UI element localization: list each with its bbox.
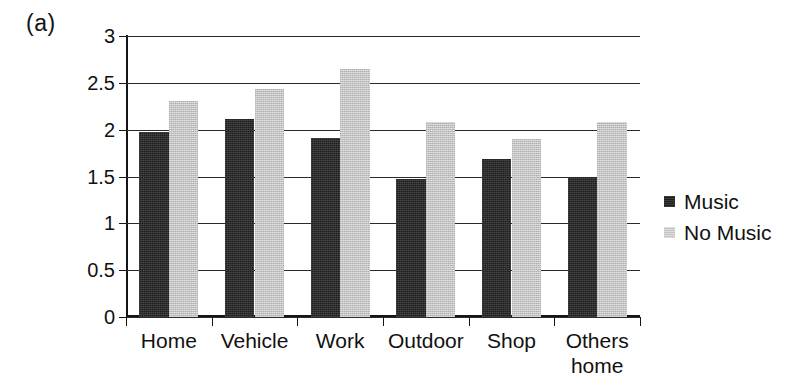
bar xyxy=(512,139,542,317)
x-category-label-line: Home xyxy=(126,328,212,353)
x-tick-mark xyxy=(126,317,127,326)
y-tick-mark xyxy=(119,83,126,84)
legend-swatch-icon xyxy=(664,196,675,207)
gridline xyxy=(126,270,640,271)
y-tick-label: 1 xyxy=(104,212,115,235)
x-tick-mark xyxy=(212,317,213,326)
x-category-label-line: Vehicle xyxy=(212,328,298,353)
x-category-label: Home xyxy=(126,328,212,353)
y-tick-mark xyxy=(119,270,126,271)
y-tick-label: 0 xyxy=(104,306,115,329)
bar xyxy=(396,179,426,317)
legend-swatch-icon xyxy=(664,227,675,238)
chart-legend: MusicNo Music xyxy=(664,186,772,248)
y-tick-label: 2.5 xyxy=(87,71,115,94)
gridline xyxy=(126,36,640,37)
bar xyxy=(482,159,512,317)
x-category-label-line: home xyxy=(554,353,640,378)
x-tick-mark xyxy=(383,317,384,326)
gridline xyxy=(126,83,640,84)
bar xyxy=(568,177,598,317)
y-tick-mark xyxy=(119,177,126,178)
x-tick-mark xyxy=(554,317,555,326)
gridline xyxy=(126,130,640,131)
x-category-label: Shop xyxy=(469,328,555,353)
x-tick-mark xyxy=(640,317,641,326)
bar-chart: 00.511.522.53 xyxy=(126,36,640,317)
bar xyxy=(225,119,255,317)
y-tick-label: 3 xyxy=(104,25,115,48)
x-category-label: Othershome xyxy=(554,328,640,378)
bar xyxy=(139,132,169,317)
y-tick-mark xyxy=(119,36,126,37)
x-category-label-line: Others xyxy=(554,328,640,353)
bar xyxy=(311,138,341,317)
y-tick-label: 2 xyxy=(104,118,115,141)
x-category-label-line: Work xyxy=(297,328,383,353)
bar xyxy=(426,122,456,317)
bar xyxy=(340,69,370,317)
bar xyxy=(597,122,627,317)
legend-label: Music xyxy=(684,190,739,214)
x-category-label: Work xyxy=(297,328,383,353)
x-category-label: Vehicle xyxy=(212,328,298,353)
x-category-label-line: Outdoor xyxy=(383,328,469,353)
bar xyxy=(255,89,285,317)
panel-label: (a) xyxy=(26,10,56,37)
legend-label: No Music xyxy=(684,221,772,245)
legend-item[interactable]: No Music xyxy=(664,217,772,248)
bar xyxy=(169,101,199,317)
y-tick-label: 1.5 xyxy=(87,165,115,188)
y-tick-mark xyxy=(119,317,126,318)
y-tick-label: 0.5 xyxy=(87,259,115,282)
gridline xyxy=(126,177,640,178)
x-tick-mark xyxy=(469,317,470,326)
x-category-label-line: Shop xyxy=(469,328,555,353)
legend-item[interactable]: Music xyxy=(664,186,772,217)
x-tick-mark xyxy=(297,317,298,326)
x-category-label: Outdoor xyxy=(383,328,469,353)
gridline xyxy=(126,223,640,224)
y-tick-mark xyxy=(119,130,126,131)
y-tick-mark xyxy=(119,223,126,224)
